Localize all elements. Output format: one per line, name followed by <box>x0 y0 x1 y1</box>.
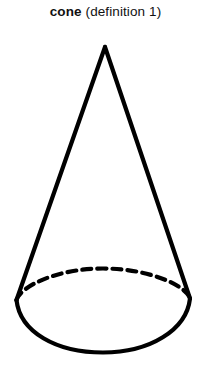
cone-right-slant-line <box>105 47 190 299</box>
cone-svg <box>0 0 211 379</box>
cone-base-visible-arc <box>17 299 191 353</box>
cone-figure <box>0 0 211 379</box>
figure-page: cone (definition 1) <box>0 0 211 379</box>
cone-base-hidden-arc <box>17 269 191 301</box>
cone-outline <box>17 47 191 353</box>
cone-left-slant-line <box>17 47 106 300</box>
